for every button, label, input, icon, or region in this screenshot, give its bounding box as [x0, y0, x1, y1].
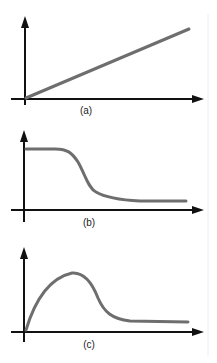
peak-decay-curve: [26, 273, 188, 330]
panel-a: (a): [11, 16, 204, 116]
y-axis-arrow-icon: [21, 16, 29, 28]
linear-curve: [26, 29, 189, 98]
panel-b: (b): [11, 130, 204, 228]
y-axis-arrow-icon: [20, 130, 28, 142]
panel-c: (c): [11, 247, 204, 350]
panel-label-b: (b): [83, 217, 95, 228]
y-axis-arrow-icon: [20, 247, 28, 259]
x-axis-arrow-icon: [192, 206, 204, 214]
figure: (a) (b) (c): [0, 0, 217, 363]
sigmoid-decline-curve: [26, 149, 186, 201]
panel-label-a: (a): [80, 105, 92, 116]
panel-label-c: (c): [83, 339, 95, 350]
x-axis-arrow-icon: [192, 95, 204, 103]
x-axis-arrow-icon: [192, 328, 204, 336]
